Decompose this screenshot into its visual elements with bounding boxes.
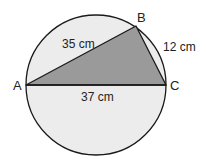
point-label-b: B — [137, 10, 146, 25]
side-label-ab: 35 cm — [62, 37, 95, 51]
point-label-a: A — [13, 78, 22, 93]
diagram-canvas: A B C 35 cm 12 cm 37 cm — [0, 0, 206, 168]
circle-triangle-diagram: A B C 35 cm 12 cm 37 cm — [0, 0, 206, 168]
side-label-bc: 12 cm — [163, 40, 196, 54]
point-label-c: C — [170, 78, 179, 93]
side-label-ac: 37 cm — [81, 90, 114, 104]
